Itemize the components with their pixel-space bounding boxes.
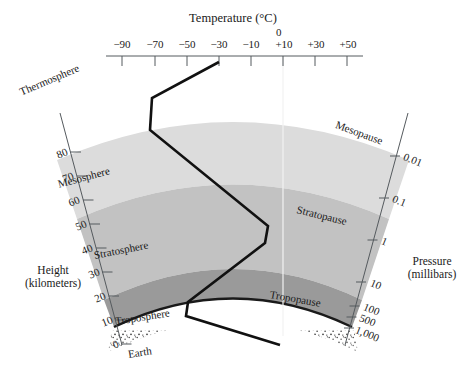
temperature-axis-title: Temperature (°C) (0, 11, 466, 26)
temp-tick-label: −70 (140, 38, 170, 50)
pressure-axis-title-line2: (millibars) (398, 268, 466, 281)
temp-tick-label: −90 (107, 38, 137, 50)
temp-tick-label: −30 (204, 38, 234, 50)
temp-tick-label: +10 (269, 38, 299, 50)
temp-tick-label: −50 (172, 38, 202, 50)
temp-tick-label: +50 (333, 38, 363, 50)
atmosphere-diagram: Temperature (°C) 0 −90 −70 −50 −30 −10 +… (0, 0, 466, 374)
temperature-axis (106, 56, 363, 66)
temp-tick-label: +30 (301, 38, 331, 50)
pressure-axis-title: Pressure (millibars) (398, 255, 466, 281)
temperature-zero-label: 0 (276, 26, 282, 38)
pressure-axis-title-line1: Pressure (398, 255, 466, 268)
temp-tick-label: −10 (236, 38, 266, 50)
